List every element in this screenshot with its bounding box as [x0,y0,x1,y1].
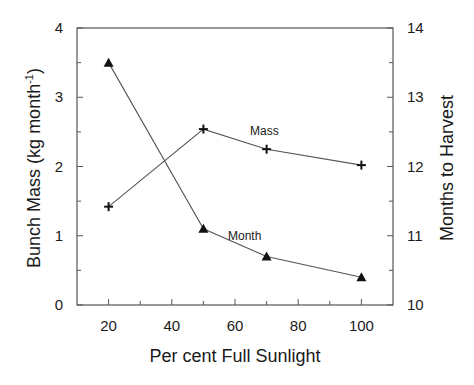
x-tick-label: 60 [227,317,244,334]
y2-tick-label: 11 [407,227,423,244]
y-tick-label: 4 [55,19,63,36]
left-y-axis-ticks: 01234 [55,19,83,313]
left-y-axis-title: Bunch Mass (kg month-1) [23,68,44,268]
left-y-axis-title-superscript: -1 [23,74,35,84]
y2-tick-label: 10 [407,296,424,313]
y2-tick-label: 13 [407,88,424,105]
left-y-axis-title-close: ) [24,68,44,74]
plot-frame [77,28,393,305]
y-tick-label: 3 [55,88,63,105]
triangle-marker-icon [198,224,208,233]
triangle-marker-icon [262,252,272,261]
x-axis-title: Per cent Full Sunlight [149,346,320,366]
y-tick-label: 1 [55,227,63,244]
series-label-month: Month [228,229,261,243]
x-tick-label: 40 [163,317,180,334]
triangle-marker-icon [104,58,114,67]
y2-tick-label: 14 [407,19,424,36]
series-month [104,58,367,282]
y-tick-label: 2 [55,158,63,175]
y2-tick-label: 12 [407,158,424,175]
x-tick-label: 100 [349,317,374,334]
plus-marker-icon [357,161,366,170]
series-annotations: MassMonth [228,124,279,243]
x-axis-ticks: 20406080100 [100,299,374,334]
data-series [104,58,367,282]
plot-border [77,28,393,305]
left-y-axis-title-main: Bunch Mass (kg month [24,84,44,268]
x-tick-label: 80 [290,317,307,334]
series-line [109,129,362,207]
plus-marker-icon [262,145,271,154]
right-y-axis-title: Months to Harvest [437,95,457,241]
dual-axis-line-chart: 20406080100 01234 1011121314 MassMonth P… [0,0,474,385]
series-mass [104,125,366,212]
series-line [109,63,362,278]
series-label-mass: Mass [250,124,279,138]
y-tick-label: 0 [55,296,63,313]
x-tick-label: 20 [100,317,117,334]
